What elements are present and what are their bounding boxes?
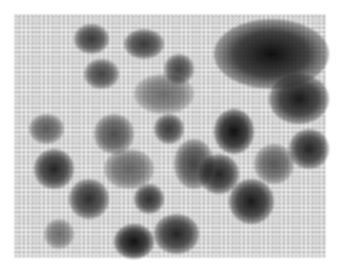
granular-texture	[14, 14, 326, 257]
micrograph-frame	[0, 0, 337, 279]
micrograph-image	[14, 14, 326, 257]
